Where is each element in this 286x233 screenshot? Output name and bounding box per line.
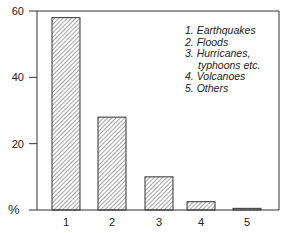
y-tick-label: 20: [12, 138, 24, 150]
bar-chart: 204060 12345 % 1. Earthquakes2. Floods3.…: [0, 0, 286, 233]
bar-2: [98, 117, 126, 210]
legend-item: 5. Others: [185, 82, 229, 94]
x-tick-label: 2: [109, 216, 115, 228]
bar-3: [145, 177, 173, 210]
x-tick-labels: 12345: [63, 216, 250, 228]
legend-item: 1. Earthquakes: [185, 24, 256, 36]
y-tick-label: 60: [12, 5, 24, 17]
legend-item: 3. Hurricanes,: [185, 47, 250, 59]
x-tick-label: 1: [63, 216, 69, 228]
x-tick-label: 5: [244, 216, 250, 228]
bar-5: [233, 208, 261, 210]
legend-item: 2. Floods: [184, 36, 229, 48]
legend: 1. Earthquakes2. Floods3. Hurricanes,typ…: [184, 24, 260, 94]
x-tick-label: 4: [198, 216, 204, 228]
bar-4: [187, 202, 215, 210]
legend-item: 4. Volcanoes: [185, 70, 246, 82]
legend-item: typhoons etc.: [198, 59, 260, 71]
bar-1: [52, 18, 80, 210]
x-tick-label: 3: [156, 216, 162, 228]
y-axis-label: %: [8, 202, 20, 217]
y-tick-label: 40: [12, 71, 24, 83]
y-ticks: 204060: [12, 5, 37, 150]
